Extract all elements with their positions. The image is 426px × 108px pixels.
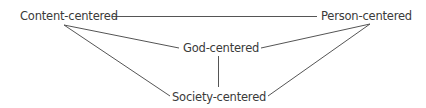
node-god-centered: God-centered <box>183 41 259 55</box>
node-society-centered: Society-centered <box>172 90 266 104</box>
centeredness-diagram: Content-centered Person-centered God-cen… <box>0 0 426 108</box>
node-content-centered: Content-centered <box>20 9 118 23</box>
node-person-centered: Person-centered <box>321 9 412 23</box>
